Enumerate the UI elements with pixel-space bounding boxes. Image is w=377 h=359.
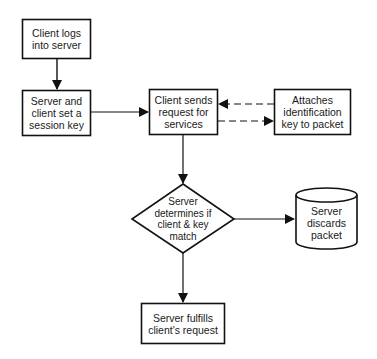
node-discard-line-3: packet: [307, 229, 346, 241]
node-login-label: Client logs into server: [22, 19, 91, 59]
node-session-line-3: session key: [29, 119, 84, 131]
node-login-line-2: into server: [32, 39, 81, 51]
node-login-line-1: Client logs: [32, 27, 81, 39]
node-decision-label: Server determines if client & key match: [138, 191, 228, 247]
node-decision-line-3: client & key: [154, 219, 211, 231]
node-session-label: Server and client set a session key: [22, 90, 91, 136]
node-discard-label: Server discards packet: [296, 202, 357, 244]
node-fulfill-line-2: client's request: [148, 324, 218, 336]
node-attach-line-2: identification: [282, 106, 344, 118]
node-discard-line-1: Server: [307, 205, 346, 217]
node-fulfill-line-1: Server fulfills: [148, 312, 218, 324]
node-attach-line-1: Attaches: [282, 94, 344, 106]
node-attach-label: Attaches identification key to packet: [274, 89, 351, 135]
node-request-line-1: Client sends: [155, 94, 213, 106]
node-request-line-2: request for: [155, 106, 213, 118]
node-discard-line-2: discards: [307, 217, 346, 229]
node-decision-line-4: match: [154, 231, 211, 243]
node-decision-line-2: determines if: [154, 208, 211, 220]
node-request-line-3: services: [155, 118, 213, 130]
node-request-label: Client sends request for services: [149, 89, 218, 135]
node-decision-line-1: Server: [154, 196, 211, 208]
node-fulfill-label: Server fulfills client's request: [141, 303, 225, 344]
node-session-line-2: client set a: [29, 107, 84, 119]
node-session-line-1: Server and: [29, 95, 84, 107]
node-attach-line-3: key to packet: [282, 118, 344, 130]
